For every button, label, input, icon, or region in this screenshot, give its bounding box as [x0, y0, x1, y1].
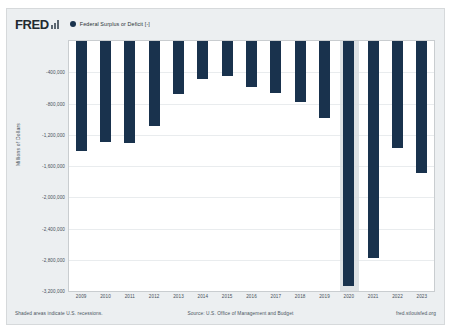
- bar-2012[interactable]: [149, 41, 160, 126]
- y-axis: -400,000-800,000-1,200,000-1,600,000-2,0…: [23, 40, 68, 292]
- y-axis-tick-label: -1,200,000: [42, 132, 65, 137]
- bar-series: [69, 41, 434, 291]
- bar-2021[interactable]: [368, 41, 379, 258]
- footer-recession-note: Shaded areas indicate U.S. recessions.: [15, 311, 103, 316]
- chart-legend[interactable]: Federal Surplus or Deficit [-]: [70, 21, 150, 27]
- chart-card: FRED Federal Surplus or Deficit [-] Mill…: [6, 8, 445, 325]
- y-axis-tick-label: -1,600,000: [42, 164, 65, 169]
- bar-2010[interactable]: [100, 41, 111, 142]
- gridline: [69, 291, 434, 292]
- legend-series-label: Federal Surplus or Deficit [-]: [80, 21, 150, 27]
- bar-2020[interactable]: [343, 41, 354, 286]
- x-axis-tick-label: 2012: [149, 294, 160, 299]
- bar-2018[interactable]: [295, 41, 306, 102]
- bar-2017[interactable]: [270, 41, 281, 93]
- x-axis-tick-label: 2021: [368, 294, 379, 299]
- y-axis-tick-label: -2,800,000: [42, 257, 65, 262]
- y-axis-tick-label: -2,000,000: [42, 195, 65, 200]
- footer-source: Source: U.S. Office of Management and Bu…: [187, 311, 293, 316]
- bar-2015[interactable]: [222, 41, 233, 76]
- x-axis-tick-label: 2022: [392, 294, 403, 299]
- y-axis-tick-label: -3,200,000: [42, 289, 65, 294]
- y-axis-title: Millions of Dollars: [15, 123, 21, 166]
- x-axis-tick-label: 2014: [198, 294, 209, 299]
- bar-2014[interactable]: [197, 41, 208, 79]
- x-axis-tick-label: 2017: [271, 294, 282, 299]
- x-axis-tick-label: 2009: [76, 294, 87, 299]
- x-axis-tick-label: 2018: [295, 294, 306, 299]
- x-axis-tick-label: 2020: [344, 294, 355, 299]
- bar-2011[interactable]: [124, 41, 135, 143]
- fred-logo[interactable]: FRED: [15, 18, 59, 31]
- x-axis: 2009201020112012201320142015201620172018…: [68, 294, 435, 306]
- y-axis-tick-label: -800,000: [46, 101, 65, 106]
- x-axis-tick-label: 2011: [125, 294, 135, 299]
- footer-url[interactable]: fred.stlouisfed.org: [396, 311, 436, 316]
- fred-chart-screenshot: FRED Federal Surplus or Deficit [-] Mill…: [0, 0, 451, 333]
- y-axis-tick-label: -2,400,000: [42, 226, 65, 231]
- bar-2009[interactable]: [76, 41, 87, 151]
- bar-2023[interactable]: [416, 41, 427, 173]
- x-axis-tick-label: 2019: [319, 294, 330, 299]
- plot-area: [68, 40, 435, 292]
- x-axis-tick-label: 2023: [417, 294, 428, 299]
- bar-2022[interactable]: [392, 41, 403, 148]
- x-axis-tick-label: 2015: [222, 294, 233, 299]
- bar-2013[interactable]: [173, 41, 184, 94]
- bar-2016[interactable]: [246, 41, 257, 87]
- x-axis-tick-label: 2013: [173, 294, 184, 299]
- chart-header: FRED Federal Surplus or Deficit [-]: [15, 17, 150, 31]
- x-axis-tick-label: 2010: [100, 294, 111, 299]
- legend-dot-icon: [70, 21, 76, 27]
- bar-chart-icon: [51, 20, 59, 29]
- y-axis-tick-label: -400,000: [46, 70, 65, 75]
- fred-logo-text: FRED: [15, 18, 49, 31]
- bar-2019[interactable]: [319, 41, 330, 118]
- chart-footer: Shaded areas indicate U.S. recessions. S…: [15, 309, 436, 318]
- x-axis-tick-label: 2016: [246, 294, 257, 299]
